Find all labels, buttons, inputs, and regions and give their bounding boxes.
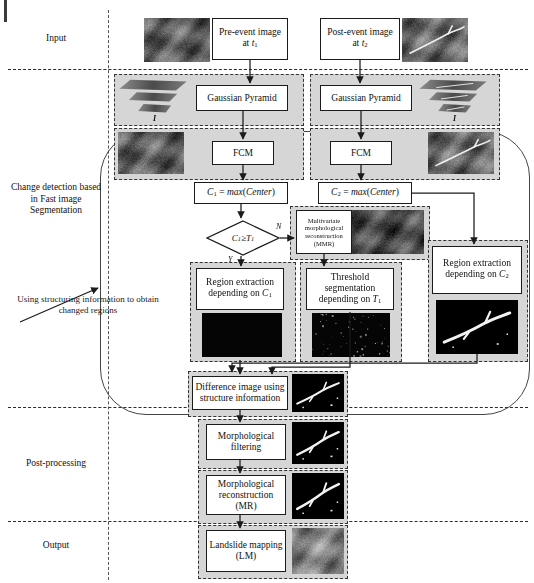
stage-label-input: Input (10, 33, 102, 45)
node-morphological-reconstruction-label: Morphological reconstruction (MR) (209, 479, 283, 512)
node-post-event-image[interactable]: Post-event image at t2 (320, 18, 400, 60)
thumbnail-morph-recon-result (292, 473, 344, 519)
node-region-extraction-c1-label: Region extraction depending on C1 (199, 277, 281, 300)
thumbnail-region-c2-mask (436, 300, 518, 354)
thumbnail-pyramid-right (418, 78, 496, 120)
node-morphological-reconstruction[interactable]: Morphological reconstruction (MR) (206, 475, 286, 515)
node-mmr-label: Multivariate morphological reconstructio… (299, 217, 349, 247)
node-pre-event-image[interactable]: Pre-event image at t1 (212, 18, 288, 60)
thumbnail-threshold-t1-mask (312, 313, 390, 357)
node-pre-event-image-label: Pre-event image at t1 (215, 27, 285, 50)
node-threshold-segmentation-t1-label: Threshold segmentation depending on T1 (309, 272, 391, 306)
node-post-event-image-label: Post-event image at t2 (323, 27, 397, 50)
node-region-extraction-c1[interactable]: Region extraction depending on C1 (196, 268, 284, 310)
node-gaussian-pyramid-left-label: Gaussian Pyramid (207, 93, 276, 104)
stage-label-post-processing: Post-processing (10, 458, 102, 470)
decision-branch-yes-label: Y (228, 255, 232, 264)
node-decision-label: C1≥T1 (206, 220, 280, 256)
thumbnail-region-c1-mask (202, 313, 282, 357)
thumbnail-morph-filter-result (292, 422, 344, 464)
separator-input-bottom (8, 69, 528, 70)
thumbnail-fcm-left (118, 132, 184, 174)
node-c2-formula[interactable]: C2 = max(Center) (318, 182, 412, 204)
node-c1-formula-label: C1 = max(Center) (207, 187, 275, 199)
thumbnail-pre-event-image (144, 18, 210, 62)
node-region-extraction-c2-label: Region extraction depending on C2 (435, 258, 519, 281)
node-fcm-left-label: FCM (233, 148, 253, 159)
node-landslide-mapping-label: Landslide mapping (LM) (209, 540, 283, 562)
node-fcm-right-label: FCM (351, 148, 371, 159)
thumbnail-pyramid-left (118, 78, 196, 120)
node-c1-formula[interactable]: C1 = max(Center) (194, 182, 288, 204)
node-morphological-filtering[interactable]: Morphological filtering (206, 424, 286, 460)
node-c2-formula-label: C2 = max(Center) (331, 187, 399, 199)
thumbnail-mmr-result (352, 210, 424, 254)
thumbnail-difference-image (292, 374, 344, 412)
node-region-extraction-c2[interactable]: Region extraction depending on C2 (432, 246, 522, 294)
thumbnail-fcm-right (428, 132, 494, 174)
node-fcm-left[interactable]: FCM (212, 141, 274, 165)
node-decision-c1-ge-t1[interactable]: C1≥T1 (206, 220, 280, 256)
pyramid-marker-left: I (153, 114, 156, 123)
node-gaussian-pyramid-right[interactable]: Gaussian Pyramid (320, 85, 412, 111)
decision-branch-no-label: N (276, 222, 281, 231)
thumbnail-landslide-map-result (292, 528, 344, 574)
node-landslide-mapping[interactable]: Landslide mapping (LM) (206, 530, 286, 572)
node-threshold-segmentation-t1[interactable]: Threshold segmentation depending on T1 (306, 268, 394, 310)
stage-label-change-detection: Change detection based in Fast image Seg… (8, 182, 104, 217)
node-difference-image-label: Difference image using structure informa… (195, 382, 285, 404)
node-difference-image[interactable]: Difference image using structure informa… (192, 376, 288, 410)
stage-label-output: Output (10, 540, 102, 552)
node-fcm-right[interactable]: FCM (330, 141, 392, 165)
page-crop-mark (4, 0, 7, 22)
figure-canvas: Input Change detection based in Fast ima… (0, 0, 534, 583)
thumbnail-post-event-image (402, 18, 468, 62)
node-gaussian-pyramid-left[interactable]: Gaussian Pyramid (196, 85, 288, 111)
structuring-information-note: Using structuring information to obtain … (4, 294, 172, 316)
node-morphological-filtering-label: Morphological filtering (209, 431, 283, 453)
pyramid-marker-right: I (453, 114, 456, 123)
node-gaussian-pyramid-right-label: Gaussian Pyramid (331, 93, 400, 104)
node-mmr[interactable]: Multivariate morphological reconstructio… (296, 210, 352, 254)
